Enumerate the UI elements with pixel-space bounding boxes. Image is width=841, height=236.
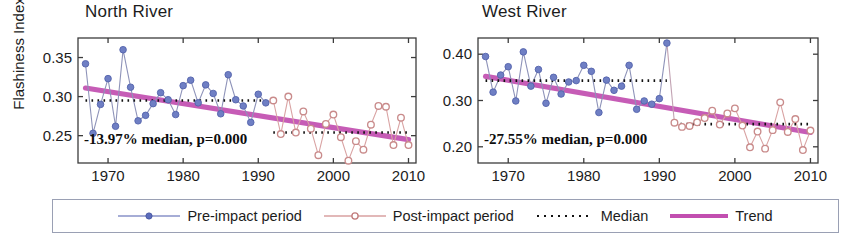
data-point-pre-impact [550,74,557,81]
data-point-post-impact [330,111,337,118]
data-point-post-impact [754,128,761,135]
data-point-pre-impact [664,40,671,47]
y-tick-label: 0.25 [28,127,72,144]
data-point-pre-impact [202,82,209,89]
data-point-pre-impact [255,91,262,98]
data-point-post-impact [390,142,397,149]
data-point-post-impact [270,97,277,104]
data-point-post-impact [807,127,814,134]
data-point-pre-impact [210,90,217,97]
data-point-post-impact [285,93,292,100]
data-point-pre-impact [82,60,89,67]
data-point-pre-impact [247,119,254,126]
data-point-pre-impact [225,71,232,78]
chart-panel-north-river: North River Flashiness Index -13.97% med… [0,0,420,196]
data-point-pre-impact [565,79,572,86]
data-point-post-impact [353,138,360,145]
data-point-pre-impact [217,110,224,117]
data-point-pre-impact [157,89,164,96]
data-point-pre-impact [180,82,187,89]
data-point-post-impact [368,121,375,128]
y-tick-label: 0.40 [428,45,472,62]
data-point-pre-impact [97,101,104,108]
post-impact-line-marker-icon [324,209,386,223]
data-point-pre-impact [232,96,239,103]
data-point-post-impact [405,142,412,149]
legend-label-post-impact: Post-impact period [393,208,514,224]
data-point-pre-impact [641,98,648,105]
data-point-post-impact [360,146,367,153]
data-point-pre-impact [520,49,527,56]
data-point-post-impact [338,134,345,141]
data-point-post-impact [747,144,754,151]
data-point-pre-impact [596,109,603,116]
data-point-post-impact [716,121,723,128]
annotation-north-river: -13.97% median, p=0.000 [84,131,247,148]
x-tick-label: 1970 [483,167,533,184]
data-point-pre-impact [626,62,633,69]
data-point-pre-impact [187,77,194,84]
median-dotted-line-icon [536,209,594,223]
legend-item-pre-impact: Pre-impact period [118,208,301,224]
data-point-pre-impact [112,123,119,130]
legend-item-median: Median [536,208,649,224]
data-point-pre-impact [490,89,497,96]
data-point-pre-impact [611,87,618,94]
trend-line-icon [670,209,728,223]
x-tick-label: 1990 [233,167,283,184]
data-point-post-impact [762,145,769,152]
data-point-pre-impact [535,66,542,73]
data-point-pre-impact [573,77,580,84]
legend-label-pre-impact: Pre-impact period [187,208,301,224]
data-point-post-impact [383,103,390,110]
data-point-post-impact [777,99,784,106]
data-point-pre-impact [120,46,127,53]
data-point-post-impact [709,107,716,114]
data-point-pre-impact [505,63,512,70]
data-point-pre-impact [618,83,625,90]
data-point-pre-impact [262,100,269,107]
y-tick-label: 0.30 [28,88,72,105]
data-point-post-impact [315,152,322,159]
y-tick-label: 0.20 [428,138,472,155]
data-point-post-impact [694,119,701,126]
data-point-pre-impact [656,95,663,102]
y-tick-label: 0.35 [28,49,72,66]
chart-legend: Pre-impact period Post-impact period Med… [52,199,839,233]
y-tick-label: 0.30 [428,92,472,109]
x-tick-label: 2000 [710,167,760,184]
data-point-post-impact [308,125,315,132]
annotation-west-river: -27.55% median, p=0.000 [484,131,647,148]
data-point-pre-impact [150,100,157,107]
data-point-post-impact [769,127,776,134]
data-point-pre-impact [105,75,112,82]
data-point-post-impact [784,129,791,136]
data-point-pre-impact [172,111,179,118]
data-point-post-impact [293,129,300,136]
data-point-pre-impact [127,84,134,91]
x-tick-label: 1990 [634,167,684,184]
data-point-pre-impact [497,72,504,79]
data-point-post-impact [671,119,678,126]
data-point-post-impact [800,147,807,154]
data-point-pre-impact [240,103,247,110]
data-point-pre-impact [580,62,587,69]
x-tick-label: 1980 [559,167,609,184]
data-point-post-impact [724,110,731,117]
data-point-pre-impact [195,100,202,107]
chart-panel-west-river: West River -27.55% median, p=0.000 0.200… [420,0,841,196]
data-point-pre-impact [482,53,489,60]
legend-label-trend: Trend [735,208,772,224]
x-tick-label: 1980 [158,167,208,184]
data-point-post-impact [323,121,330,128]
x-tick-label: 2010 [785,167,835,184]
data-point-post-impact [345,157,352,164]
legend-item-trend: Trend [670,208,772,224]
data-point-post-impact [278,131,285,138]
data-point-post-impact [732,105,739,112]
data-point-post-impact [375,103,382,110]
legend-item-post-impact: Post-impact period [324,208,514,224]
x-tick-label: 2000 [308,167,358,184]
x-tick-label: 1970 [83,167,133,184]
data-point-post-impact [398,114,405,121]
